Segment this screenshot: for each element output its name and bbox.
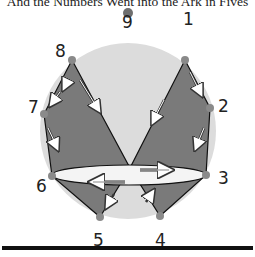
label-1: 1 [183,9,194,29]
dot-5 [96,213,104,221]
dot-1 [181,56,189,64]
dot-3 [202,171,210,179]
baseline-rule [2,246,253,250]
dot-8 [68,56,76,64]
label-8: 8 [55,41,66,61]
connecting-ellipse [52,165,206,185]
dot-7 [40,110,48,118]
dot-2 [206,104,214,112]
label-3: 3 [218,168,229,188]
label-2: 2 [218,96,229,116]
label-7: 7 [28,97,39,117]
dot-6 [48,172,56,180]
label-9: 9 [122,12,133,32]
label-6: 6 [36,176,47,196]
dot-4 [156,212,164,220]
ark-diagram: 1 2 3 4 5 6 7 8 9 [0,0,255,257]
